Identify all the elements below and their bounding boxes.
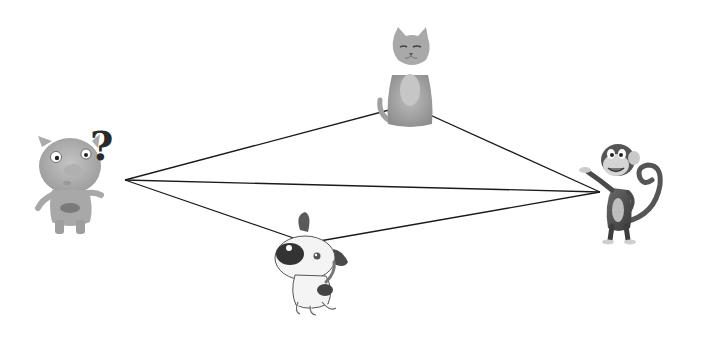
segment-cat-monkey [408, 105, 600, 192]
segment-pig-cat [125, 105, 408, 180]
dog-illustration [275, 212, 348, 315]
monkey-illustration [579, 144, 660, 245]
segment-pig-dog [125, 180, 308, 243]
question-mark: ? [90, 122, 113, 169]
cat-illustration [380, 27, 433, 127]
figure-canvas: ? [0, 0, 716, 347]
segment-pig-monkey [125, 180, 600, 192]
connecting-lines [125, 105, 600, 243]
segment-dog-monkey [308, 192, 600, 243]
